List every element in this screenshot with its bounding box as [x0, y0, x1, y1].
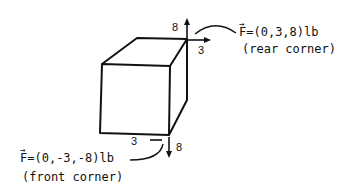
arrow-right-icon [204, 37, 211, 43]
cube-top-face [102, 38, 187, 66]
rear-leader-line [195, 26, 236, 34]
arrow-down-icon [166, 151, 172, 158]
arrow-up-icon [184, 18, 190, 25]
vector-arrow-icon: → [239, 17, 244, 31]
front-side-component: 3 [131, 135, 137, 147]
front-down-component: 8 [176, 141, 182, 153]
front-corner-label: (front corner) [22, 170, 123, 184]
vector-f-front: →F [20, 151, 27, 165]
vector-arrow-icon: → [20, 143, 25, 157]
vector-f-rear: →F [239, 25, 246, 39]
cube-front-face [100, 64, 170, 135]
rear-force-label: →F=(0,3,8)lb [239, 25, 318, 39]
rear-side-component: 3 [198, 44, 204, 56]
rear-up-component: 8 [172, 21, 178, 33]
front-force-label: →F=(0,-3,-8)lb [20, 151, 114, 165]
rear-corner-label: (rear corner) [242, 42, 336, 56]
